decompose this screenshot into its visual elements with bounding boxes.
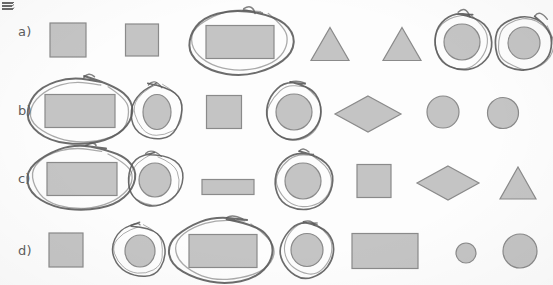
annotation-loop <box>112 222 165 276</box>
annotation-loop <box>131 82 182 139</box>
annotation-loop <box>129 151 183 206</box>
row-label-b: b) <box>18 103 32 118</box>
annotation-loops-layer <box>0 0 553 285</box>
row-label-c: c) <box>18 171 31 186</box>
annotation-loop <box>169 216 274 283</box>
worksheet-page: a)b)c)d) <box>0 0 553 285</box>
annotation-loop <box>28 74 133 144</box>
annotation-loop <box>189 7 293 75</box>
annotation-loop <box>267 81 321 140</box>
annotation-loop <box>275 149 333 210</box>
annotation-loop <box>435 9 492 69</box>
row-label-d: d) <box>18 243 32 258</box>
annotation-loop <box>495 13 553 70</box>
row-label-a: a) <box>18 24 31 39</box>
annotation-loop <box>27 143 135 210</box>
annotation-loop <box>280 221 333 278</box>
